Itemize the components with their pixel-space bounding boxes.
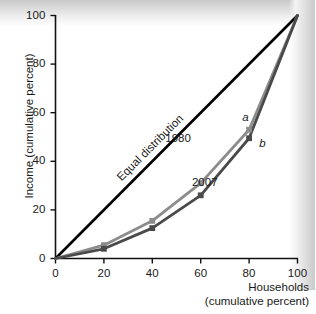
x-axis-tick-label: 0 xyxy=(36,267,76,279)
lorenz-curve-figure: 020406080100 020406080100 Income (cumula… xyxy=(0,0,315,314)
y-axis-tick-label: 100 xyxy=(4,9,46,21)
x-axis-tick-label: 60 xyxy=(181,267,221,279)
y-axis-title: Income (cumulative percent) xyxy=(23,21,35,231)
x-axis-tick-label: 40 xyxy=(132,267,172,279)
x-axis-tick-label: 20 xyxy=(84,267,124,279)
x-axis-tick-label: 100 xyxy=(278,267,316,279)
data-point-marker xyxy=(198,192,204,198)
annotation-point-b: b xyxy=(259,137,265,149)
x-axis-title-line1: Households xyxy=(205,281,309,295)
annotation-series-1980: 1980 xyxy=(165,132,191,144)
data-point-marker xyxy=(149,218,155,224)
data-point-marker xyxy=(246,135,252,141)
x-axis-tick-label: 80 xyxy=(229,267,269,279)
x-axis-title: Households (cumulative percent) xyxy=(205,281,309,308)
data-point-marker xyxy=(101,246,107,252)
x-axis-title-line2: (cumulative percent) xyxy=(205,295,309,309)
series-markers-1980 xyxy=(101,127,252,248)
data-point-marker xyxy=(149,225,155,231)
annotation-series-2007: 2007 xyxy=(192,176,218,188)
y-axis-tick-label: 0 xyxy=(4,252,46,264)
data-point-marker xyxy=(246,127,252,133)
annotation-point-a: a xyxy=(242,111,248,123)
